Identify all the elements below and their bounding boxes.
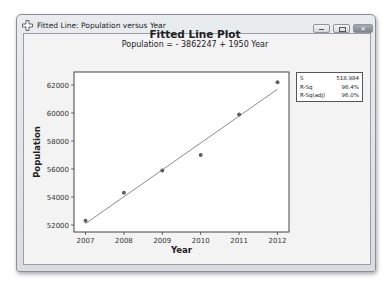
y-axis-label: Population	[32, 126, 42, 178]
x-tick-label: 2009	[153, 237, 171, 245]
y-tick-label: 62000	[47, 82, 69, 90]
stat-r-sq-adj: R-Sq(adj) 96.0%	[300, 91, 359, 100]
fitted-line-plot: 5200054000560005800060000620002007200820…	[0, 0, 390, 283]
stat-s: S 518.984	[300, 74, 359, 83]
x-tick-label: 2012	[269, 237, 287, 245]
stat-r-sq: R-Sq 96.4%	[300, 83, 359, 92]
data-point	[84, 219, 88, 223]
x-tick-label: 2011	[230, 237, 248, 245]
stats-legend: S 518.984 R-Sq 96.4% R-Sq(adj) 96.0%	[296, 72, 363, 102]
x-tick-label: 2007	[77, 237, 95, 245]
y-tick-label: 56000	[47, 166, 69, 174]
data-point	[122, 191, 126, 195]
data-point	[237, 112, 241, 116]
x-tick-label: 2010	[192, 237, 210, 245]
y-tick-label: 58000	[47, 138, 69, 146]
y-tick-label: 52000	[47, 222, 69, 230]
data-point	[199, 153, 203, 157]
plot-area	[74, 72, 289, 232]
y-tick-label: 60000	[47, 110, 69, 118]
y-tick-label: 54000	[47, 194, 69, 202]
data-point	[276, 80, 280, 84]
data-point	[160, 168, 164, 172]
x-tick-label: 2008	[115, 237, 133, 245]
x-axis-label: Year	[170, 245, 193, 255]
